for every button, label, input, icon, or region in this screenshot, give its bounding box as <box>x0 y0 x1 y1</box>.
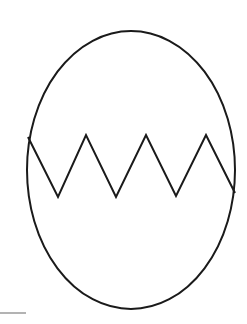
egg-crack-figure <box>0 0 247 324</box>
zigzag-crack-line <box>28 135 235 197</box>
egg-outline <box>27 31 235 309</box>
